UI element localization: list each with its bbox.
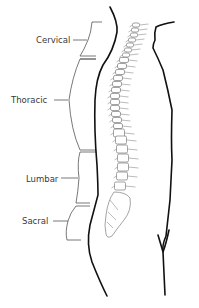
vertebra xyxy=(116,70,125,75)
vertebra xyxy=(111,94,120,99)
body-buttock-outline xyxy=(158,230,169,295)
vertebra xyxy=(112,88,121,93)
body-front-outline xyxy=(88,7,117,296)
sacrum xyxy=(105,192,130,237)
vertebra xyxy=(131,33,138,37)
bracket-lumbar xyxy=(61,152,90,206)
vertebra xyxy=(118,154,129,162)
label-cervical: Cervical xyxy=(36,35,70,45)
bracket-cervical xyxy=(73,22,102,59)
vertebra xyxy=(111,100,120,105)
bracket-thoracic xyxy=(54,59,96,152)
vertebra xyxy=(123,53,130,57)
vertebra xyxy=(117,172,128,180)
label-sacral: Sacral xyxy=(22,216,48,226)
vertebra xyxy=(120,58,129,63)
label-thoracic: Thoracic xyxy=(10,95,48,105)
vertebra xyxy=(127,43,134,47)
vertebra xyxy=(125,48,132,52)
vertebra xyxy=(113,118,122,123)
label-lumbar: Lumbar xyxy=(26,174,59,184)
vertebra xyxy=(118,163,129,171)
spine-diagram: Cervical Thoracic Lumbar Sacral xyxy=(0,0,199,308)
vertebra xyxy=(129,38,136,42)
vertebra xyxy=(116,136,127,144)
vertebra xyxy=(117,145,128,153)
vertebra xyxy=(115,182,126,190)
vertebra xyxy=(111,106,120,111)
vertebra xyxy=(114,124,123,129)
vertebra xyxy=(114,76,123,81)
vertebra xyxy=(133,23,140,27)
bracket-sacral xyxy=(53,206,81,240)
vertebra xyxy=(113,82,122,87)
vertebra xyxy=(132,28,139,32)
vertebra xyxy=(112,112,121,117)
spine xyxy=(105,23,149,237)
vertebra xyxy=(118,64,127,69)
body-back-outline xyxy=(153,22,174,252)
